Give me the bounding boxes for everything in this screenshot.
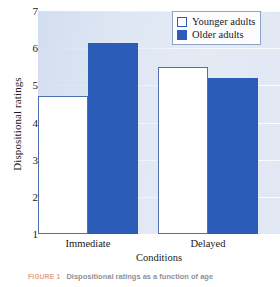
legend-label-younger-adults: Younger adults [192, 16, 255, 27]
chart-legend: Younger adults Older adults [172, 11, 261, 45]
caption-figure-number: FIGURE 1 [28, 273, 60, 280]
y-axis-tick-label: 6 [0, 43, 38, 54]
figure-caption: FIGURE 1 Dispositional ratings as a func… [28, 272, 280, 281]
x-axis-tick-label: Delayed [158, 238, 258, 249]
bar-delayed-older-adults [208, 78, 258, 234]
bar-immediate-younger-adults [38, 96, 88, 234]
blue-square-swatch-icon [177, 30, 187, 40]
legend-label-older-adults: Older adults [192, 29, 244, 40]
x-axis-title: Conditions [38, 252, 280, 263]
legend-item-older-adults: Older adults [177, 28, 255, 41]
figure-container: Dispositional ratings 1234567 ImmediateD… [0, 0, 280, 287]
y-axis-tick-label: 4 [0, 117, 38, 128]
y-axis-tick-label: 1 [0, 229, 38, 240]
bar-delayed-younger-adults [158, 67, 208, 234]
white-square-swatch-icon [177, 17, 187, 27]
x-axis-tick-label: Immediate [38, 238, 138, 249]
bar-immediate-older-adults [88, 43, 138, 234]
y-axis-tick-label: 2 [0, 191, 38, 202]
caption-body-text: Dispositional ratings as a function of a… [66, 272, 213, 281]
legend-item-younger-adults: Younger adults [177, 15, 255, 28]
y-axis-tick-label: 5 [0, 80, 38, 91]
y-axis-tick-label: 7 [0, 6, 38, 17]
y-axis-tick-label: 3 [0, 154, 38, 165]
